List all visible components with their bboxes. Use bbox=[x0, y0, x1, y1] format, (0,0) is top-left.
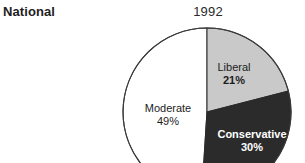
pie-label-conservative-name: Conservative bbox=[206, 128, 298, 141]
pie-label-liberal-name: Liberal bbox=[206, 61, 262, 74]
pie-label-moderate-value: 49% bbox=[132, 115, 204, 128]
pie-label-moderate-name: Moderate bbox=[132, 102, 204, 115]
pie-slice-moderate bbox=[123, 28, 207, 163]
pie-label-moderate: Moderate 49% bbox=[132, 102, 204, 128]
pie-label-liberal-value: 21% bbox=[206, 74, 262, 87]
pie-label-liberal: Liberal 21% bbox=[206, 61, 262, 87]
pie-label-conservative: Conservative 30% bbox=[206, 128, 298, 154]
chart-figure: National 1992 Liberal 21% Moderate 49% C… bbox=[0, 0, 305, 163]
pie-label-conservative-value: 30% bbox=[206, 141, 298, 154]
